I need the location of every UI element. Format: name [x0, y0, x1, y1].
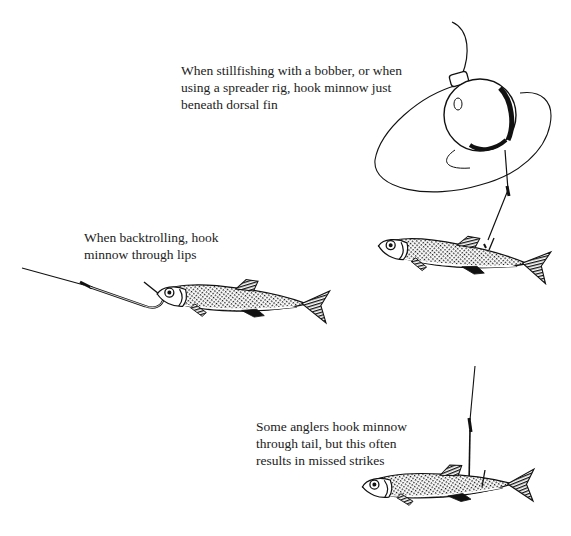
fishing-line — [452, 22, 467, 75]
hook-icon — [484, 244, 486, 248]
bobber-rig-illustration — [375, 22, 552, 284]
minnow-tail-hooked — [362, 462, 535, 507]
tail-hooked-illustration — [362, 366, 535, 507]
leader-line — [488, 150, 508, 240]
minnow-dorsal-hooked — [376, 227, 551, 284]
hook-icon — [90, 287, 164, 308]
backtrolling-illustration — [22, 268, 330, 323]
bobber-icon — [444, 71, 516, 154]
fishing-line — [470, 366, 475, 420]
minnow-lip-hooked — [156, 275, 330, 323]
fishing-line — [22, 268, 84, 285]
illustration-canvas — [0, 0, 571, 536]
